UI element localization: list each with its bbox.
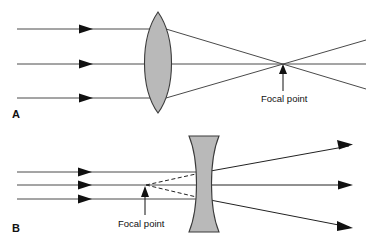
focal-point-label: Focal point bbox=[261, 93, 308, 104]
arrow-head-icon bbox=[79, 25, 93, 34]
diverged-ray-top bbox=[205, 146, 349, 172]
focal-point-label: Focal point bbox=[118, 218, 165, 229]
arrow-head-icon bbox=[337, 221, 353, 231]
arrow-head-icon bbox=[78, 195, 92, 204]
panel-a-incoming-rays bbox=[17, 25, 159, 103]
arrow-head-icon bbox=[338, 181, 353, 190]
panel-label-a: A bbox=[12, 108, 20, 120]
panel-b-diverged-rays bbox=[205, 140, 353, 231]
arrow-head-icon bbox=[79, 60, 93, 69]
refracted-ray-bottom bbox=[166, 40, 366, 98]
arrow-head-icon bbox=[79, 94, 93, 103]
diverged-ray-bottom bbox=[205, 199, 349, 227]
lens-ray-diagram-figure: Focal point A bbox=[0, 0, 373, 245]
panel-a-focal-point-annotation: Focal point bbox=[261, 64, 308, 104]
arrow-head-icon bbox=[78, 181, 92, 190]
panel-a: Focal point A bbox=[12, 12, 366, 120]
diagram-canvas: Focal point A bbox=[0, 0, 373, 245]
panel-b-incoming-rays bbox=[17, 168, 201, 204]
panel-label-b: B bbox=[12, 222, 20, 234]
arrow-head-icon bbox=[78, 168, 92, 177]
panel-b: Focal point B bbox=[12, 136, 353, 234]
arrow-head-icon bbox=[337, 140, 353, 150]
refracted-ray-top bbox=[166, 29, 366, 89]
arrow-up-icon bbox=[141, 186, 149, 197]
panel-b-focal-point-annotation: Focal point bbox=[118, 186, 165, 229]
panel-a-refracted-rays bbox=[166, 29, 366, 98]
arrow-up-icon bbox=[279, 64, 287, 74]
diverging-lens bbox=[189, 136, 219, 232]
